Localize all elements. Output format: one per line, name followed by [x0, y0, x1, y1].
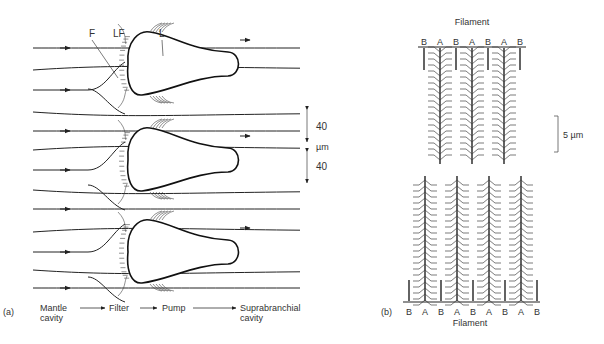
cilium-branch	[509, 294, 521, 299]
panel-b-label: (b)	[381, 307, 392, 317]
flow-line-branch	[88, 277, 125, 302]
cilium-branch	[445, 252, 457, 257]
cilium-branch	[489, 288, 501, 293]
top-letter-b: B	[421, 37, 427, 47]
cilium-branch	[425, 294, 437, 299]
cilium-branch	[440, 95, 452, 100]
cilium-branch	[413, 246, 425, 251]
panel-a-gill-flow-diagram: F LF L 40 µm 40 (a) Mantle cavity Filter…	[3, 23, 329, 323]
cilium-branch	[445, 222, 457, 227]
cilium-branch	[428, 119, 440, 124]
cilium-branch	[428, 155, 440, 160]
cilium-branch	[504, 77, 516, 82]
cilium-branch	[428, 59, 440, 64]
cilium-branch	[504, 143, 516, 148]
cilium-branch	[504, 95, 516, 100]
cilium-branch	[460, 107, 472, 112]
cilium-branch	[428, 107, 440, 112]
scale-upper-value: 40	[316, 121, 328, 132]
cilium-branch	[457, 198, 469, 203]
cilium-branch	[492, 149, 504, 154]
cilium-branch	[413, 270, 425, 275]
scale-indicator-40um: 40 µm 40	[307, 110, 329, 183]
cilium-branch	[504, 53, 516, 58]
cilium-branch	[428, 89, 440, 94]
cilium-branch	[489, 264, 501, 269]
cilium-branch	[489, 216, 501, 221]
cilium-branch	[460, 131, 472, 136]
cilium-branch	[440, 125, 452, 130]
cilium-branch	[477, 186, 489, 191]
cilium-branch	[472, 137, 484, 142]
cilium-branch	[428, 47, 440, 52]
bottom-letter-b: B	[502, 307, 508, 317]
cilium-branch	[521, 228, 533, 233]
cilium-branch	[492, 59, 504, 64]
cilium-branch	[504, 119, 516, 124]
cilium-branch	[440, 143, 452, 148]
cilium-branch	[472, 71, 484, 76]
cilium-branch	[472, 47, 484, 52]
cilium-branch	[440, 131, 452, 136]
cilium-branch	[440, 101, 452, 106]
cilium-branch	[425, 204, 437, 209]
bottom-letter-b: B	[470, 307, 476, 317]
cilium-branch	[460, 77, 472, 82]
cilium-branch	[413, 288, 425, 293]
cilium-branch	[445, 282, 457, 287]
cilium-branch	[413, 216, 425, 221]
cilium-branch	[425, 216, 437, 221]
cilium-branch	[492, 71, 504, 76]
cilium-branch	[477, 246, 489, 251]
flow-line	[33, 112, 300, 116]
cilium-branch	[445, 192, 457, 197]
cilium-branch	[489, 276, 501, 281]
cilium-branch	[440, 71, 452, 76]
cilium-branch	[477, 192, 489, 197]
cilium-branch	[504, 107, 516, 112]
cilium-branch	[460, 83, 472, 88]
cilium-branch	[428, 53, 440, 58]
cilium-branch	[492, 47, 504, 52]
cilium-branch	[477, 258, 489, 263]
cilium-branch	[425, 264, 437, 269]
cilium-branch	[489, 186, 501, 191]
cilium-branch	[457, 192, 469, 197]
cilium-branch	[440, 119, 452, 124]
cilium-branch	[425, 234, 437, 239]
cilium-branch	[509, 222, 521, 227]
cilium-branch	[489, 234, 501, 239]
cilium-branch	[509, 234, 521, 239]
cilium-branch	[489, 210, 501, 215]
cilium-branch	[445, 204, 457, 209]
flow-sequence: (a) Mantle cavity Filter Pump Suprabranc…	[3, 303, 301, 323]
cilium-branch	[492, 101, 504, 106]
scale-unit: µm	[316, 142, 329, 152]
cilium-branch	[477, 216, 489, 221]
cilium-branch	[492, 155, 504, 160]
cilium-branch	[477, 282, 489, 287]
cilium-branch	[457, 246, 469, 251]
cilium-branch	[413, 240, 425, 245]
cilium-branch	[428, 101, 440, 106]
cilium-branch	[477, 288, 489, 293]
cilium-branch	[521, 282, 533, 287]
cilium-branch	[489, 294, 501, 299]
cilium-branch	[504, 89, 516, 94]
bottom-letter-b: B	[438, 307, 444, 317]
cilium-branch	[445, 210, 457, 215]
cilium-branch	[457, 276, 469, 281]
cilium-branch	[509, 240, 521, 245]
cilium-branch	[477, 294, 489, 299]
cilium-branch	[457, 264, 469, 269]
cilium-branch	[492, 119, 504, 124]
cilium-branch	[460, 95, 472, 100]
bottom-cilia-rows	[409, 176, 537, 305]
bottom-letter-a: A	[486, 307, 492, 317]
cilium-branch	[472, 59, 484, 64]
cilium-branch	[425, 186, 437, 191]
cilium-branch	[477, 228, 489, 233]
cilium-branch	[509, 180, 521, 185]
cilium-branch	[428, 137, 440, 142]
cilium-branch	[504, 155, 516, 160]
